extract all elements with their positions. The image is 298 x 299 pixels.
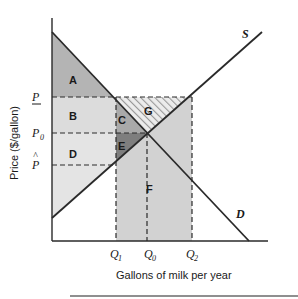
x-axis-title: Gallons of milk per year [116, 269, 232, 281]
svg-text:2: 2 [194, 254, 198, 263]
region-a-label: A [69, 74, 77, 86]
region-d [52, 133, 116, 165]
region-b [52, 97, 116, 133]
p-floor-label: P [31, 90, 41, 104]
region-e-label: E [118, 140, 125, 152]
y-axis-title: Price ($/gallon) [8, 106, 20, 180]
q1-label: Q 1 [110, 247, 122, 263]
q0-label: Q 0 [144, 247, 156, 263]
region-d-label: D [69, 148, 77, 160]
svg-text:P: P [31, 126, 40, 140]
p-hat-label: P ^ [31, 150, 40, 172]
q2-label: Q 2 [186, 247, 198, 263]
region-c-label: C [118, 114, 126, 126]
supply-demand-diagram: S D A B C G D E F P P 0 P ^ Q 1 Q 0 Q 2 … [0, 0, 298, 299]
svg-text:1: 1 [118, 254, 122, 263]
demand-label: D [235, 207, 245, 221]
supply-label: S [242, 27, 249, 41]
region-f-label: F [146, 183, 153, 195]
region-b-label: B [69, 110, 77, 122]
region-g-label: G [144, 105, 153, 117]
p-zero-label: P 0 [31, 126, 44, 142]
svg-text:0: 0 [152, 254, 156, 263]
svg-text:0: 0 [40, 133, 44, 142]
svg-text:P: P [31, 90, 40, 104]
